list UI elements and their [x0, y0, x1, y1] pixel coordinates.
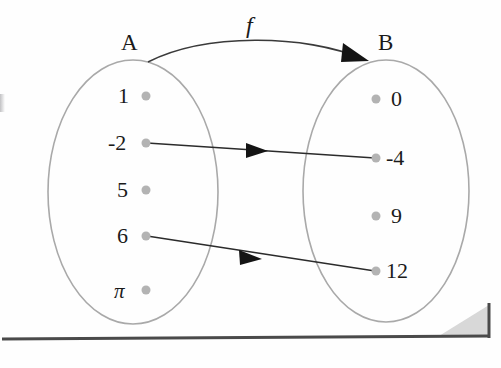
element-label-b-0: 0	[391, 88, 402, 110]
element-label-a-neg2: -2	[108, 132, 126, 154]
page-bottom-rule	[2, 336, 490, 339]
element-label-a-6: 6	[117, 225, 128, 247]
mapping-line-6-12	[147, 236, 375, 271]
page-fold-shadow	[439, 305, 489, 336]
function-arrow-curve	[148, 40, 363, 62]
dot-a-6	[142, 232, 151, 241]
set-a-label: A	[121, 31, 138, 54]
figure-canvas: A B f 1 -2 5 6 π 0 -4 9 12	[0, 0, 501, 368]
function-arrow-head	[341, 43, 369, 62]
element-label-a-1: 1	[118, 85, 129, 107]
mapping-arrowhead-neg2-neg4	[246, 143, 268, 158]
dot-a-pi	[142, 286, 151, 295]
element-label-a-pi: π	[114, 281, 125, 302]
dot-b-12	[372, 267, 381, 276]
dot-b-neg4	[372, 154, 381, 163]
dot-a-1	[142, 92, 151, 101]
mapping-diagram-svg	[0, 0, 501, 368]
dot-b-0	[372, 95, 381, 104]
dot-a-neg2	[142, 139, 151, 148]
function-label: f	[246, 13, 253, 37]
set-a-ellipse	[48, 60, 218, 324]
dot-a-5	[142, 186, 151, 195]
dot-b-9	[372, 212, 381, 221]
element-label-a-5: 5	[117, 179, 128, 201]
set-b-label: B	[378, 31, 394, 54]
element-label-b-neg4: -4	[386, 147, 404, 169]
element-label-b-9: 9	[391, 205, 402, 227]
element-label-b-12: 12	[386, 260, 408, 282]
